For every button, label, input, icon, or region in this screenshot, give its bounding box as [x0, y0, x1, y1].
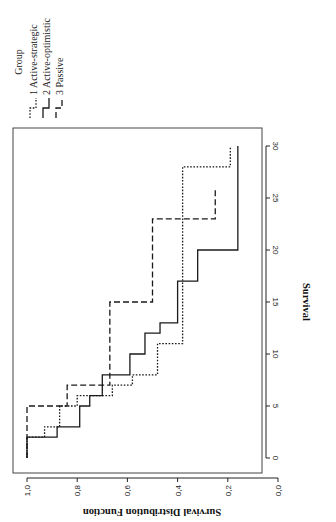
- y-tick-label: 0,6: [123, 484, 132, 496]
- legend-entry: 3 Passive: [54, 57, 65, 118]
- x-axis-title: Survival: [301, 283, 312, 321]
- legend-entry: 2 Active-optimistic: [41, 18, 52, 118]
- x-tick-label: 5: [271, 404, 280, 409]
- x-tick-label: 10: [271, 350, 280, 359]
- x-tick-label: 0: [271, 456, 280, 461]
- legend-title: Group: [13, 49, 24, 75]
- plot-frame: [13, 128, 262, 473]
- y-tick-label: 0,4: [174, 484, 183, 496]
- curve-dashed-series-3: [27, 188, 215, 458]
- y-tick-label: 1,0: [23, 484, 32, 496]
- x-tick-label: 25: [271, 194, 280, 203]
- legend-label: 2 Active-optimistic: [41, 18, 52, 95]
- x-tick-label: 20: [271, 246, 280, 255]
- survival-chart: 1,00,80,60,40,20,0 Survival Distribution…: [0, 0, 336, 522]
- x-tick-label: 15: [271, 298, 280, 307]
- x-tick-label: 30: [271, 142, 280, 151]
- legend: Group 1 Active-strategic2 Active-optimis…: [13, 18, 65, 118]
- legend-entry: 1 Active-strategic: [28, 24, 39, 118]
- legend-symbol-solid: [43, 98, 49, 118]
- legend-symbol-dotted: [30, 98, 36, 118]
- y-tick-label: 0,0: [274, 484, 283, 496]
- legend-label: 1 Active-strategic: [28, 24, 39, 95]
- legend-label: 3 Passive: [54, 57, 65, 95]
- y-tick-label: 0,8: [73, 484, 82, 496]
- x-axis-ticks: 051015202530: [266, 142, 280, 461]
- legend-symbol-dashed: [56, 98, 62, 118]
- y-axis-ticks: 1,00,80,60,40,20,0: [23, 478, 283, 496]
- survival-curves: [27, 146, 238, 458]
- y-axis-title: Survival Distribution Function: [83, 507, 221, 518]
- y-tick-label: 0,2: [224, 484, 233, 496]
